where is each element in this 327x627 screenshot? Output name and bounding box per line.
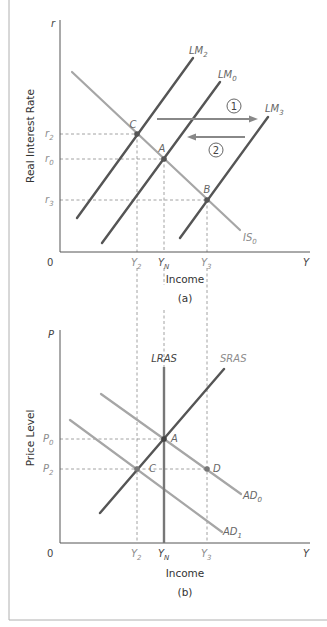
lm2-label: LM2 xyxy=(189,45,208,59)
sras-label: SRAS xyxy=(220,353,247,364)
point-a-dot xyxy=(161,156,167,162)
panel-a-guides xyxy=(60,134,207,543)
ad0-curve xyxy=(101,394,241,494)
point-c-label: C xyxy=(130,119,137,130)
panel-b-y-symbol: P xyxy=(48,329,55,340)
lm3-label: LM3 xyxy=(265,103,284,117)
point-c-dot xyxy=(134,131,140,137)
sras-curve xyxy=(100,369,224,513)
point-c-dot-b xyxy=(134,466,140,472)
is-lm-ad-as-figure: 1 2 C A B LM2 LM0 LM3 IS0 r Y 0 r2 r0 r3… xyxy=(0,0,327,627)
point-c-label-b: C xyxy=(149,463,156,474)
tick-r0: r0 xyxy=(45,153,54,167)
point-b-dot xyxy=(204,197,210,203)
point-a-label: A xyxy=(158,143,166,154)
panel-b-y-title: Price Level xyxy=(24,410,36,467)
tick-y2-a: Y2 xyxy=(131,257,142,271)
panel-a-x-title: Income xyxy=(166,273,205,285)
tick-y3-a: Y3 xyxy=(201,257,212,271)
panel-a-caption: (a) xyxy=(178,292,193,304)
point-d-dot-b xyxy=(204,466,210,472)
point-b-label: B xyxy=(204,184,211,195)
tick-y2-b: Y2 xyxy=(131,548,142,562)
point-a-label-b: A xyxy=(170,433,178,444)
lm2-curve xyxy=(77,58,193,218)
point-a-dot-b xyxy=(161,436,167,442)
tick-y3-b: Y3 xyxy=(201,548,212,562)
panel-a-is-lm: 1 2 C A B LM2 LM0 LM3 IS0 r Y 0 r2 r0 r3… xyxy=(24,18,310,543)
ad0-label: AD0 xyxy=(242,490,263,504)
ad1-label: AD1 xyxy=(222,526,242,540)
lras-label: LRAS xyxy=(151,353,177,364)
tick-yn-b: YN xyxy=(158,548,170,562)
panel-a-y-title: Real Interest Rate xyxy=(24,89,36,183)
tick-r2: r2 xyxy=(45,128,54,142)
lm0-label: LM0 xyxy=(218,69,237,83)
panel-a-x-symbol: Y xyxy=(303,257,310,268)
is0-label: IS0 xyxy=(243,232,257,246)
tick-p2: P2 xyxy=(43,463,54,477)
tick-yn-a: YN xyxy=(158,257,170,271)
point-d-label-b: D xyxy=(213,463,221,474)
panel-a-origin: 0 xyxy=(47,257,53,268)
shift-arrow-1 xyxy=(157,116,258,123)
panel-b-ad-as: A C D LRAS SRAS AD0 AD1 P Y 0 P0 P2 Y2 Y… xyxy=(24,329,310,598)
lm0-curve xyxy=(102,82,220,243)
shift-arrow-2 xyxy=(187,134,245,141)
panel-b-origin: 0 xyxy=(47,548,53,559)
step-2-label: 2 xyxy=(213,145,219,156)
panel-b-x-symbol: Y xyxy=(303,548,310,559)
tick-p0: P0 xyxy=(43,433,54,447)
panel-a-y-symbol: r xyxy=(51,18,56,29)
step-1-label: 1 xyxy=(231,101,237,112)
panel-b-x-title: Income xyxy=(166,567,205,579)
ad1-curve xyxy=(70,420,222,532)
tick-r3: r3 xyxy=(45,194,54,208)
panel-b-caption: (b) xyxy=(178,586,193,598)
